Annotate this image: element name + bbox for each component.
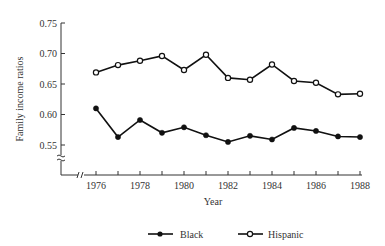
data-point [115, 62, 120, 67]
y-tick-label: 0.65 [40, 79, 58, 90]
data-point [225, 139, 230, 144]
data-point [159, 130, 164, 135]
x-axis-title: Year [204, 196, 223, 207]
data-point [137, 58, 142, 63]
legend-label-black: Black [180, 229, 203, 240]
data-point [269, 137, 274, 142]
legend-label-hispanic: Hispanic [268, 229, 304, 240]
open-circle-icon [247, 231, 252, 236]
data-point [335, 134, 340, 139]
x-tick-label: 1986 [306, 180, 326, 191]
data-point [181, 67, 186, 72]
y-tick-label: 0.75 [40, 18, 58, 29]
data-point [247, 77, 252, 82]
x-tick-label: 1980 [174, 180, 194, 191]
data-point [335, 92, 340, 97]
data-point [203, 52, 208, 57]
y-tick-label: 0.70 [40, 48, 58, 59]
data-point [93, 70, 98, 75]
data-point [115, 134, 120, 139]
data-point [225, 75, 230, 80]
x-tick-label: 1978 [130, 180, 150, 191]
data-point [269, 62, 274, 67]
legend: Black Hispanic [148, 229, 304, 240]
data-point [291, 78, 296, 83]
x-axis-break-icon [77, 172, 83, 178]
data-point [203, 133, 208, 138]
data-point [181, 125, 186, 130]
x-tick-label: 1988 [350, 180, 370, 191]
plot-area [93, 52, 362, 144]
y-axis-title: Family income ratios [14, 56, 25, 141]
y-axis-break-icon [57, 155, 65, 161]
data-point [247, 133, 252, 138]
series-hispanic [93, 52, 362, 97]
y-tick-label: 0.60 [40, 109, 58, 120]
data-point [357, 134, 362, 139]
legend-item-hispanic: Hispanic [238, 229, 304, 240]
data-point [313, 128, 318, 133]
data-point [291, 125, 296, 130]
x-tick-label: 1984 [262, 180, 282, 191]
series-black [93, 106, 362, 145]
x-tick-label: 1976 [86, 180, 106, 191]
data-point [357, 91, 362, 96]
axes: 0.750.700.650.600.5519761978198019821984… [40, 18, 371, 192]
data-point [93, 106, 98, 111]
x-tick-label: 1982 [218, 180, 238, 191]
filled-circle-icon [157, 231, 162, 236]
legend-item-black: Black [148, 229, 203, 240]
data-point [159, 53, 164, 58]
data-point [137, 117, 142, 122]
line-chart: 0.750.700.650.600.5519761978198019821984… [0, 0, 385, 246]
data-point [313, 80, 318, 85]
y-tick-label: 0.55 [40, 140, 58, 151]
